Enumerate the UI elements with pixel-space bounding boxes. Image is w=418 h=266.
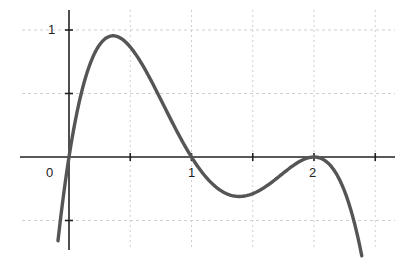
function-plot xyxy=(0,0,418,266)
origin-label: 0 xyxy=(46,165,53,180)
x-tick-label-1: 1 xyxy=(188,165,195,180)
grid-lines xyxy=(22,10,395,250)
function-curve xyxy=(58,36,362,256)
y-tick-label-1: 1 xyxy=(48,22,55,37)
x-tick-label-2: 2 xyxy=(309,165,316,180)
axes xyxy=(20,10,395,250)
